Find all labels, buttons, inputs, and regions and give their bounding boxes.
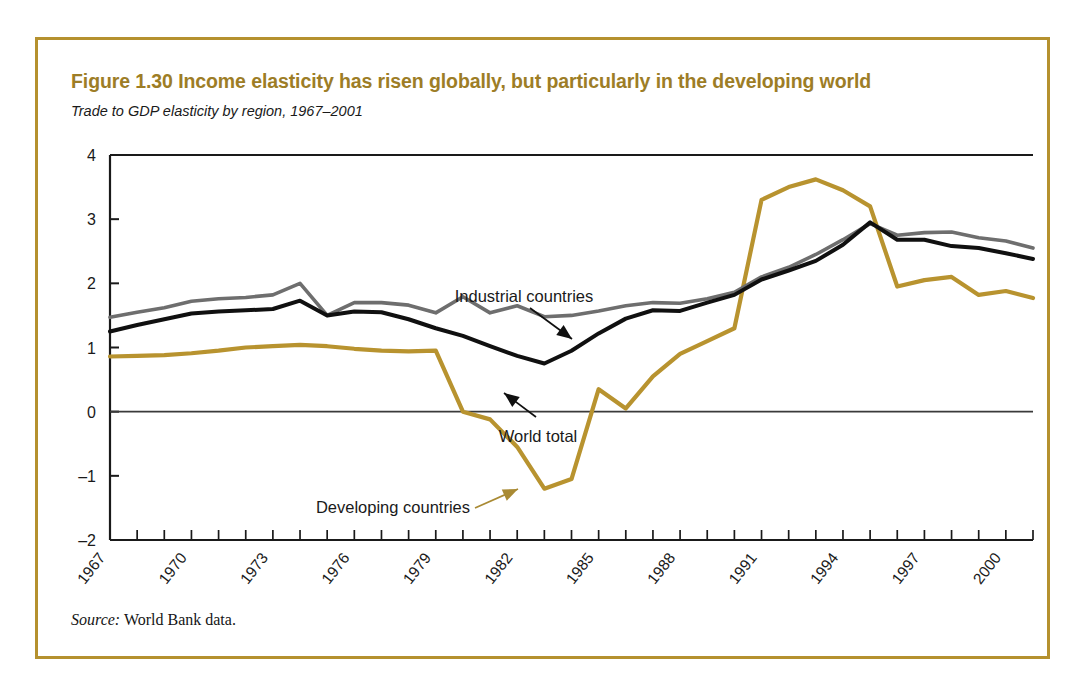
x-tick-label: 1991 xyxy=(725,549,760,587)
y-tick-label: 1 xyxy=(87,340,96,357)
annotation-label-developing: Developing countries xyxy=(316,498,470,516)
annotation-label-industrial: Industrial countries xyxy=(455,287,594,305)
x-tick-label: 1997 xyxy=(888,549,923,587)
y-tick-label: 2 xyxy=(87,275,96,292)
annotation-arrow-head-industrial xyxy=(556,325,572,339)
x-axis-ticks: 1967197019731976197919821985198819911994… xyxy=(74,530,1033,587)
x-tick-label: 1994 xyxy=(807,549,842,587)
elasticity-line-chart: 43210–1–2 196719701973197619791982198519… xyxy=(38,40,1053,662)
x-tick-label: 1982 xyxy=(481,549,516,587)
x-tick-label: 1979 xyxy=(400,549,435,587)
y-tick-label: 0 xyxy=(87,404,96,421)
y-tick-label: –1 xyxy=(78,468,96,485)
chart-plot-area: 43210–1–2 196719701973197619791982198519… xyxy=(38,40,1053,662)
x-tick-label: 1970 xyxy=(155,549,190,587)
x-tick-label: 2000 xyxy=(970,549,1005,587)
y-tick-label: 4 xyxy=(87,147,96,164)
annotation-arrow-head-developing xyxy=(502,489,518,501)
series-annotations: Industrial countriesWorld totalDevelopin… xyxy=(316,287,593,516)
y-axis-ticks: 43210–1–2 xyxy=(78,147,119,549)
x-tick-label: 1967 xyxy=(74,549,109,587)
x-tick-label: 1985 xyxy=(562,549,597,587)
annotation-label-world-total: World total xyxy=(499,427,578,445)
y-tick-label: –2 xyxy=(78,532,96,549)
figure-source: Source: World Bank data. xyxy=(71,611,236,629)
annotation-arrow-head-world-total xyxy=(504,393,520,407)
source-label: Source: xyxy=(71,611,120,628)
source-value: World Bank data. xyxy=(120,611,236,628)
x-tick-label: 1976 xyxy=(318,549,353,587)
figure-frame: Figure 1.30 Income elasticity has risen … xyxy=(35,37,1050,659)
x-tick-label: 1973 xyxy=(237,549,272,587)
x-tick-label: 1988 xyxy=(644,549,679,587)
y-tick-label: 3 xyxy=(87,211,96,228)
